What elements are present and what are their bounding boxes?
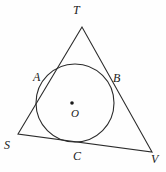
figure-background: [0, 0, 166, 172]
tangent-point-label-c: C: [73, 150, 81, 162]
tangent-point-label-b: B: [113, 72, 120, 84]
vertex-label-v: V: [151, 153, 158, 165]
tangent-point-label-a: A: [33, 71, 40, 83]
geometry-canvas: [0, 0, 166, 172]
vertex-label-t: T: [73, 4, 80, 16]
vertex-label-s: S: [4, 139, 10, 151]
center-label-o: O: [71, 107, 79, 119]
circle-center-dot: [70, 101, 74, 105]
geometry-figure: T A B S C V O: [0, 0, 166, 172]
